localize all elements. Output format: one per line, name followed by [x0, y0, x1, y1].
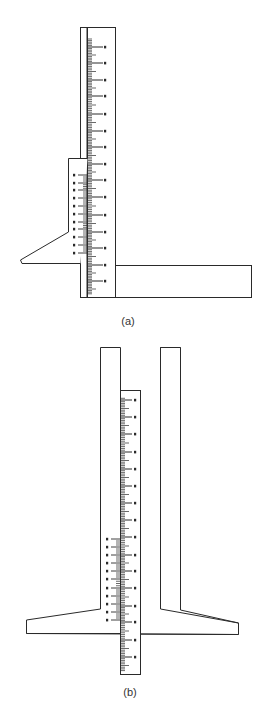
panel-a-label: (a): [108, 315, 148, 327]
panel-b-label: (b): [110, 686, 150, 698]
panel-b-sliding-scale: [121, 391, 141, 675]
panel-a-base-bar: [116, 266, 252, 298]
panel-b-depth-gauge: [27, 348, 239, 675]
depth-gauge-diagram: [0, 0, 269, 712]
panel-a-vernier-slider: [21, 159, 88, 264]
panel-a-vernier-depth-gauge: [21, 28, 252, 298]
panel-b-right-column: [161, 348, 239, 624]
